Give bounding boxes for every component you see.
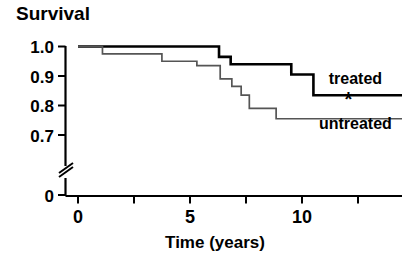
chart-figure: Survival 1.0 0.9 0.8 0.7 0 [0, 0, 404, 257]
x-tick-label-10: 10 [292, 207, 312, 227]
curve-label-group: treateduntreated* [319, 70, 392, 131]
curve-label-untreated: untreated [319, 115, 392, 132]
y-tick-label-0.8: 0.8 [30, 97, 54, 116]
x-tick-label-5: 5 [185, 207, 195, 227]
x-axis-title: Time (years) [165, 233, 265, 252]
x-tick-group [78, 196, 358, 204]
curve-label-treated: treated [329, 70, 382, 87]
x-tick-label-0: 0 [73, 207, 83, 227]
y-tick-label-0: 0 [45, 187, 54, 206]
y-tick-label-1.0: 1.0 [30, 38, 54, 57]
survival-plot: Survival 1.0 0.9 0.8 0.7 0 [0, 0, 404, 257]
y-tick-label-0.9: 0.9 [30, 68, 54, 87]
y-tick-label-0.7: 0.7 [30, 127, 54, 146]
y-axis-title: Survival [16, 3, 90, 24]
significance-star: * [345, 88, 353, 110]
